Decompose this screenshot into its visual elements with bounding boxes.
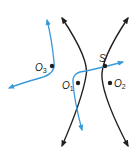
point-o3 xyxy=(50,64,54,68)
point-o1 xyxy=(76,81,80,85)
label-s: S xyxy=(99,53,106,64)
point-s xyxy=(103,64,107,68)
point-o2 xyxy=(108,81,112,85)
label-o2: O2 xyxy=(114,78,126,90)
label-o3: O3 xyxy=(35,62,47,74)
label-o1: O1 xyxy=(62,80,74,92)
hyperbola-diagram: O3 O1 O2 S xyxy=(0,0,135,152)
blue-path-1 xyxy=(9,20,54,88)
